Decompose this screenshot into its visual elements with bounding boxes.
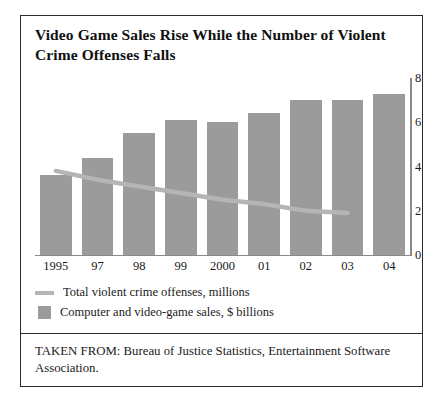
y-tick-label: 8: [415, 72, 421, 85]
x-tick-label: 03: [327, 260, 369, 273]
violent-crime-line: [56, 171, 348, 213]
page-title: Video Game Sales Rise While the Number o…: [35, 25, 403, 65]
x-tick-label: 04: [368, 260, 410, 273]
x-tick-label: 97: [77, 260, 119, 273]
y-tick-label: 0: [415, 249, 421, 262]
x-tick-label: 01: [243, 260, 285, 273]
legend-item-violent-crime: Total violent crime offenses, millions: [35, 284, 395, 301]
line-swatch-icon: [35, 291, 54, 295]
y-axis-line: [410, 78, 412, 256]
chart-legend: Total violent crime offenses, millions C…: [35, 284, 395, 324]
y-tick-label: 6: [415, 116, 421, 129]
y-tick-label: 4: [415, 161, 421, 174]
y-tick-label: 2: [415, 205, 421, 218]
source-note: TAKEN FROM: Bureau of Justice Statistics…: [35, 343, 397, 378]
figure-frame: Video Game Sales Rise While the Number o…: [20, 15, 423, 387]
legend-item-game-sales: Computer and video-game sales, $ billion…: [35, 304, 395, 321]
x-tick-label: 1995: [35, 260, 77, 273]
legend-label-violent-crime: Total violent crime offenses, millions: [63, 285, 250, 300]
legend-label-game-sales: Computer and video-game sales, $ billion…: [60, 305, 274, 320]
plot-area: [35, 78, 410, 255]
x-tick-label: 98: [118, 260, 160, 273]
bar-swatch-icon: [38, 306, 51, 319]
x-axis-line: [35, 255, 411, 256]
x-tick-label: 02: [285, 260, 327, 273]
x-tick-label: 2000: [202, 260, 244, 273]
x-tick-label: 99: [160, 260, 202, 273]
source-divider: [21, 333, 422, 334]
line-series-layer: [35, 78, 410, 255]
